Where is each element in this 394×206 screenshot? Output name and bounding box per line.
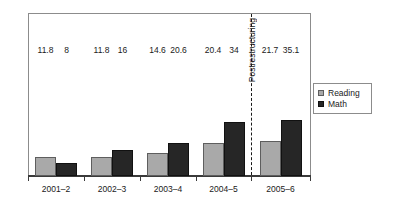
bar-wrap-math: 8 xyxy=(56,56,77,176)
bar-value-label: 21.7 xyxy=(262,45,279,55)
bar-math[interactable] xyxy=(112,150,133,176)
x-axis-category-label: 2003–4 xyxy=(140,184,196,194)
bar-group: 11.8 16 xyxy=(84,56,140,176)
postrestructuring-label: Postrestructuring xyxy=(247,18,257,82)
math-swatch-icon xyxy=(318,101,324,107)
x-axis-category-label: 2002–3 xyxy=(84,184,140,194)
legend-label: Reading xyxy=(328,88,360,98)
bar-reading[interactable] xyxy=(260,141,281,176)
bar-math[interactable] xyxy=(56,163,77,176)
x-axis-tick xyxy=(251,177,252,181)
x-axis-tick xyxy=(310,177,311,181)
bar-chart-figure: 11.8 8 11.8 16 14.6 20.6 20.4 xyxy=(0,0,394,206)
bar-wrap-math: 20.6 xyxy=(168,56,189,176)
bar-group: 11.8 8 xyxy=(28,56,84,176)
bar-value-label: 8 xyxy=(64,45,69,55)
x-axis-tick xyxy=(140,177,141,181)
bar-value-label: 20.6 xyxy=(170,45,187,55)
x-axis-category-label: 2001–2 xyxy=(28,184,84,194)
legend-label: Math xyxy=(328,99,347,109)
bar-group: 21.7 35.1 xyxy=(251,56,310,176)
bar-value-label: 11.8 xyxy=(94,45,110,55)
bar-wrap-reading: 14.6 xyxy=(147,56,168,176)
bar-group: 20.4 34 xyxy=(196,56,251,176)
bar-reading[interactable] xyxy=(35,157,56,176)
bar-wrap-math: 16 xyxy=(112,56,133,176)
bar-value-label: 11.8 xyxy=(38,45,54,55)
bar-wrap-reading: 11.8 xyxy=(91,56,112,176)
bar-wrap-math: 35.1 xyxy=(281,56,302,176)
x-axis-category-label: 2004–5 xyxy=(196,184,251,194)
x-axis-tick xyxy=(28,177,29,181)
bar-value-label: 34 xyxy=(229,45,238,55)
x-axis-category-label: 2005–6 xyxy=(251,184,310,194)
bar-value-label: 20.4 xyxy=(205,45,222,55)
bar-value-label: 35.1 xyxy=(283,45,300,55)
bar-reading[interactable] xyxy=(91,157,112,176)
bar-wrap-reading: 20.4 xyxy=(203,56,224,176)
x-axis-tick xyxy=(196,177,197,181)
bar-math[interactable] xyxy=(281,120,302,176)
bar-wrap-math: 34 xyxy=(224,56,245,176)
bar-value-label: 14.6 xyxy=(149,45,166,55)
reading-swatch-icon xyxy=(318,90,324,96)
legend-item-math[interactable]: Math xyxy=(318,98,367,109)
legend-item-reading[interactable]: Reading xyxy=(318,87,367,98)
bar-group: 14.6 20.6 xyxy=(140,56,196,176)
bar-math[interactable] xyxy=(168,143,189,176)
chart-legend: Reading Math xyxy=(313,83,372,114)
bar-value-label: 16 xyxy=(118,45,127,55)
bar-reading[interactable] xyxy=(203,143,224,176)
x-axis-tick xyxy=(84,177,85,181)
bar-wrap-reading: 11.8 xyxy=(35,56,56,176)
bar-reading[interactable] xyxy=(147,153,168,176)
bar-wrap-reading: 21.7 xyxy=(260,56,281,176)
bar-math[interactable] xyxy=(224,122,245,176)
